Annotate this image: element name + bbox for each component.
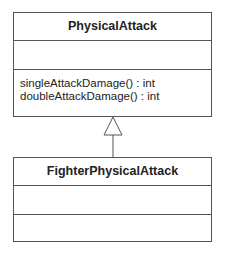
operation: doubleAttackDamage() : int: [14, 90, 211, 103]
class-name: FighterPhysicalAttack: [14, 158, 211, 186]
operation: singleAttackDamage() : int: [14, 77, 211, 90]
operations-compartment: singleAttackDamage() : int doubleAttackD…: [14, 70, 211, 103]
class-fighter-physical-attack[interactable]: FighterPhysicalAttack: [13, 157, 212, 242]
class-name: PhysicalAttack: [14, 13, 211, 41]
class-physical-attack[interactable]: PhysicalAttack singleAttackDamage() : in…: [13, 12, 212, 117]
hollow-triangle-arrowhead-icon: [104, 117, 122, 135]
attributes-compartment: [14, 41, 211, 70]
attributes-compartment: [14, 186, 211, 215]
